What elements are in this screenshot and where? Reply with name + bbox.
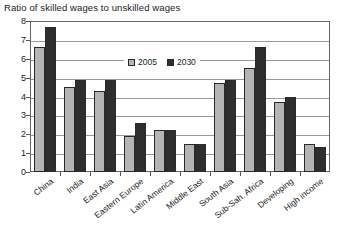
bar-2005-china	[34, 47, 45, 172]
y-axis-tick-mark	[26, 172, 30, 173]
bar-2030-latin-america	[165, 130, 176, 172]
bar-2005-developing	[274, 102, 285, 172]
bar-2030-middle-east	[195, 144, 206, 172]
x-axis-tick-mark	[270, 172, 271, 176]
bar-2030-developing	[285, 97, 296, 173]
x-axis-tick-mark	[240, 172, 241, 176]
bar-group	[270, 21, 300, 172]
legend-swatch-2005	[128, 59, 135, 66]
bar-2005-east-asia	[94, 91, 105, 172]
bar-2005-south-asia	[214, 83, 225, 172]
bar-2030-south-asia	[225, 80, 236, 172]
bar-group	[210, 21, 240, 172]
bar-2005-eastern-europe	[124, 136, 135, 172]
x-axis-tick-mark	[60, 172, 61, 176]
y-axis-tick-label: 0	[2, 167, 26, 177]
y-axis-tick-label: 1	[2, 148, 26, 158]
x-axis-tick-mark	[180, 172, 181, 176]
y-axis-tick-label: 8	[2, 16, 26, 26]
bar-2005-middle-east	[184, 144, 195, 172]
bar-2005-latin-america	[154, 130, 165, 172]
bar-group	[300, 21, 330, 172]
y-axis-tick-label: 5	[2, 73, 26, 83]
bar-2030-sub-sah-africa	[255, 47, 266, 172]
chart-title: Ratio of skilled wages to unskilled wage…	[4, 2, 180, 13]
y-axis-tick-label: 6	[2, 54, 26, 64]
legend-label-2005: 2005	[138, 57, 157, 67]
legend-swatch-2030	[167, 59, 174, 66]
bar-group	[60, 21, 90, 172]
legend-item-2005: 2005	[128, 57, 157, 67]
bar-2030-china	[45, 27, 56, 172]
bar-2030-india	[75, 80, 86, 172]
legend-item-2030: 2030	[167, 57, 196, 67]
bar-group	[30, 21, 60, 172]
x-axis-tick-mark	[90, 172, 91, 176]
bar-2030-high-income	[315, 147, 326, 172]
x-axis-tick-mark	[150, 172, 151, 176]
y-axis-tick-label: 2	[2, 129, 26, 139]
y-axis-tick-label: 7	[2, 35, 26, 45]
chart-container: Ratio of skilled wages to unskilled wage…	[0, 0, 356, 245]
bar-2005-high-income	[304, 144, 315, 172]
bar-series-layer	[30, 21, 330, 172]
bar-2005-sub-sah-africa	[244, 68, 255, 172]
x-axis-tick-mark	[210, 172, 211, 176]
bar-2030-east-asia	[105, 80, 116, 172]
bar-2030-eastern-europe	[135, 123, 146, 172]
bar-group	[150, 21, 180, 172]
bar-group	[180, 21, 210, 172]
x-axis-tick-mark	[300, 172, 301, 176]
y-axis-tick-label: 4	[2, 92, 26, 102]
bar-group	[240, 21, 270, 172]
bar-2005-india	[64, 87, 75, 172]
chart-legend: 20052030	[124, 56, 200, 68]
bar-group	[90, 21, 120, 172]
y-axis-tick-label: 3	[2, 110, 26, 120]
x-axis-tick-mark	[120, 172, 121, 176]
legend-label-2030: 2030	[177, 57, 196, 67]
bar-group	[120, 21, 150, 172]
